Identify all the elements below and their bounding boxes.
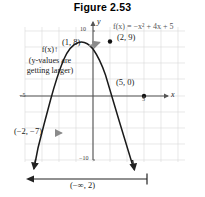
function-equation: f(x) = −x² + 4x + 5 xyxy=(113,22,173,31)
increasing-note-line-1: f(x)↑ xyxy=(10,45,90,54)
point-vertex-marker xyxy=(108,39,112,43)
x-axis-label: x xyxy=(171,90,175,99)
y-tick-label-neg10: −10 xyxy=(79,155,88,161)
curve-arrow-right xyxy=(133,160,135,170)
interval-bar-left-arrow xyxy=(26,176,34,183)
x-tick-label-5: 5 xyxy=(142,96,145,102)
point-label-neg2-neg7: (−2, −7) xyxy=(14,127,42,137)
point-label-5-0: (5, 0) xyxy=(116,78,134,88)
curve-arrow-left xyxy=(34,159,36,169)
interval-label: (−∞, 2) xyxy=(70,181,95,191)
y-axis-label: y xyxy=(97,17,101,26)
increasing-note-line-2: (y-values are xyxy=(6,56,94,65)
y-tick-label-10: 10 xyxy=(80,26,86,32)
x-tick-label-neg5: −5 xyxy=(19,92,25,98)
point-label-2-9: (2, 9) xyxy=(117,33,135,43)
increasing-note-line-3: getting larger) xyxy=(6,66,94,75)
pointer-arrow-1-8 xyxy=(89,43,100,47)
